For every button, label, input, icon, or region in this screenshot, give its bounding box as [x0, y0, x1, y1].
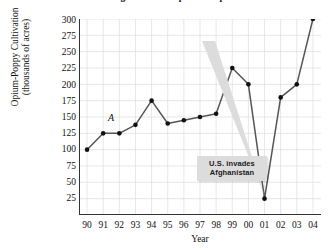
- y-axis-tick-labels: 300 275 250 225 200 175 150 125 100 75 5…: [48, 0, 76, 251]
- plot-area: [79, 19, 321, 215]
- x-axis-title: Year: [79, 233, 321, 245]
- y-tick-label: 200: [50, 80, 76, 90]
- y-axis-title: Opium-Poppy Cultivation (thousands of ac…: [10, 0, 40, 137]
- chart-figure: Afghanistan's Opium Crop Opium-Poppy Cul…: [0, 0, 335, 251]
- point-label-a: A: [108, 113, 114, 123]
- x-tick-label: 04: [302, 219, 324, 231]
- y-tick-label: 150: [50, 112, 76, 122]
- y-tick-label: 125: [50, 128, 76, 138]
- y-tick-label: 25: [50, 193, 76, 203]
- y-tick-label: 75: [50, 161, 76, 171]
- chart-svg: [79, 19, 321, 215]
- y-axis-title-line2: (thousands of acres): [21, 0, 32, 137]
- y-tick-label: 175: [50, 96, 76, 106]
- y-tick-label: 225: [50, 63, 76, 73]
- y-tick-label: 250: [50, 47, 76, 57]
- y-tick-label: 100: [50, 144, 76, 154]
- callout-line-1: U.S. invades: [199, 159, 265, 168]
- callout-line-2: Afghanistan: [199, 168, 265, 177]
- us-invades-callout: U.S. invades Afghanistan: [197, 156, 267, 181]
- y-tick-label: 300: [50, 15, 76, 25]
- y-axis-title-line1: Opium-Poppy Cultivation: [10, 0, 21, 137]
- x-axis-tick-labels: 909192939495969798990001020304: [79, 219, 321, 232]
- y-tick-label: 275: [50, 31, 76, 41]
- y-tick-label: 50: [50, 177, 76, 187]
